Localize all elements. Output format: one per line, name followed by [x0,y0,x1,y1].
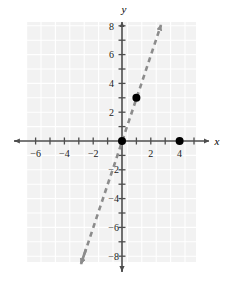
y-tick-label: 6 [109,49,114,60]
x-tick-label: 2 [148,148,153,159]
origin-point [118,137,126,145]
y-tick-label: 4 [109,78,114,89]
coordinate-plane-canvas: −6 −4 −2 2 4 8 6 4 2 −2 −4 −6 −8 x y [0,0,226,281]
y-axis-label: y [121,3,127,15]
x-axis-label: x [214,135,220,147]
x-tick-label: −4 [59,148,70,159]
line-point [132,94,140,102]
graph-figure: −6 −4 −2 2 4 8 6 4 2 −2 −4 −6 −8 x y [0,0,226,281]
y-tick-label: −6 [108,222,119,233]
x-tick-label: −2 [88,148,99,159]
y-tick-label: 2 [109,107,114,118]
x-axis-point [176,137,184,145]
x-tick-label: −6 [30,148,41,159]
y-tick-label: −4 [108,193,119,204]
y-tick-label: −8 [108,251,119,262]
y-tick-label: 8 [109,21,114,32]
x-tick-label: 4 [177,148,182,159]
